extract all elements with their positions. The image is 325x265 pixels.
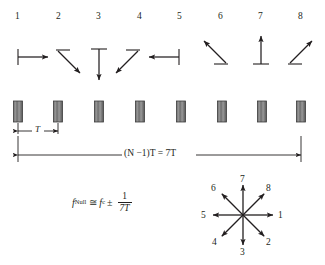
formula-approx-equal: ≅: [89, 198, 97, 208]
element-index-1: 1: [15, 12, 20, 22]
phase-arrow-4: [116, 50, 140, 73]
formula-rhs-subscript: c: [102, 199, 105, 206]
array-element-4: [136, 101, 145, 122]
element-index-8: 8: [298, 12, 303, 22]
phase-arrow-1: [18, 49, 48, 65]
total-length-text: (N −1)T = 7T: [124, 149, 176, 159]
phasor-spoke-2: [243, 215, 264, 236]
array-element-7: [258, 101, 267, 122]
phasor-label-8: 8: [266, 184, 271, 194]
phase-arrow-2: [56, 50, 80, 73]
array-element-1: [14, 101, 23, 122]
element-index-6: 6: [218, 12, 223, 22]
formula-fraction: 1 7T: [118, 192, 132, 213]
phase-arrow-8: [288, 41, 312, 64]
element-index-4: 4: [137, 12, 142, 22]
array-element-5: [177, 101, 186, 122]
phasor-spoke-4: [222, 215, 243, 236]
phase-arrow-7: [253, 36, 269, 64]
phasor-spoke-8: [243, 194, 264, 215]
formula-plus-minus: ±: [107, 198, 113, 208]
array-element-3: [95, 101, 104, 122]
phasor-spoke-6: [222, 194, 243, 215]
phasor-label-7: 7: [240, 175, 245, 185]
array-element-2: [54, 101, 63, 122]
phasor-label-6: 6: [211, 184, 216, 194]
phase-arrow-6: [204, 41, 228, 64]
fraction-numerator: 1: [120, 192, 129, 202]
phase-arrow-3: [91, 49, 107, 80]
array-elements: [14, 101, 306, 122]
phasor-label-5: 5: [201, 211, 206, 221]
fraction-denominator: 7T: [118, 202, 132, 213]
phasor-label-1: 1: [278, 211, 283, 221]
element-index-7: 7: [258, 12, 263, 22]
element-index-5: 5: [177, 12, 182, 22]
formula-lhs-subscript: Null: [75, 199, 87, 206]
element-index-2: 2: [56, 12, 61, 22]
phasor-label-3: 3: [240, 248, 245, 258]
phasor-label-2: 2: [266, 238, 271, 248]
total-length-label: (N −1)T = 7T: [124, 149, 176, 159]
element-index-3: 3: [96, 12, 101, 22]
array-element-8: [297, 101, 306, 122]
null-frequency-formula: fNull ≅ fc ± 1 7T: [72, 192, 132, 213]
phasor-label-4: 4: [212, 238, 217, 248]
phase-arrow-5: [149, 49, 179, 65]
phasor-star: [213, 185, 273, 245]
spacing-label-T: T: [35, 125, 40, 134]
array-element-6: [218, 101, 227, 122]
antenna-array-phasor-figure: [0, 0, 325, 265]
